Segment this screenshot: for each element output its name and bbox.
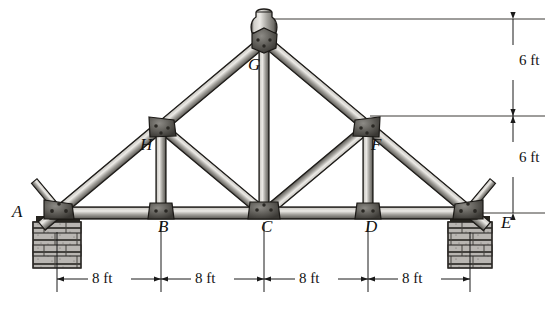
- joint-label-C: C: [261, 218, 272, 235]
- joint-label-A: A: [12, 203, 22, 220]
- joint-label-B: B: [158, 218, 168, 235]
- dimension-reference-lines: [268, 19, 545, 213]
- dimension-label-height-upper: 6 ft: [519, 53, 539, 68]
- vertical-GC: [259, 40, 269, 217]
- gusset-H: [149, 117, 176, 137]
- dimension-label-span-2: 8 ft: [195, 271, 215, 286]
- joint-label-G: G: [248, 56, 260, 73]
- gusset-G: [252, 28, 277, 53]
- dimension-label-span-4: 8 ft: [402, 271, 422, 286]
- joint-label-D: D: [365, 218, 377, 235]
- truss-figure: [0, 0, 557, 315]
- joint-label-E: E: [501, 214, 511, 231]
- joint-label-F: F: [371, 136, 381, 153]
- dimension-label-span-3: 8 ft: [299, 271, 319, 286]
- joint-label-H: H: [140, 136, 152, 153]
- dimension-label-height-lower: 6 ft: [519, 150, 539, 165]
- dimension-label-span-1: 8 ft: [92, 271, 112, 286]
- gusset-F: [353, 117, 380, 137]
